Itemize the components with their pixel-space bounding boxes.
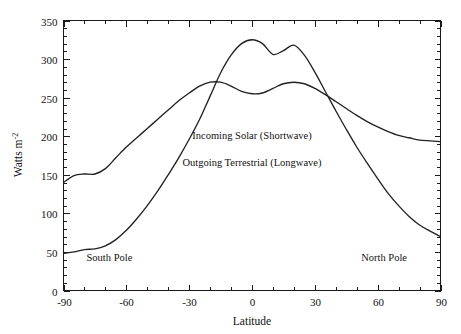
x-axis-tick-labels: -90-60-300306090 bbox=[57, 296, 447, 308]
label-south-pole: South Pole bbox=[87, 252, 133, 263]
latitude-radiation-chart: 050100150200250300350 -90-60-300306090 I… bbox=[0, 0, 461, 334]
y-tick-label: 200 bbox=[41, 131, 58, 143]
x-axis-title: Latitude bbox=[233, 315, 271, 327]
x-tick-label: 30 bbox=[310, 296, 322, 308]
y-axis-title-exponent: -2 bbox=[11, 133, 20, 140]
x-axis-major-ticks bbox=[65, 21, 442, 291]
x-tick-label: 60 bbox=[373, 296, 385, 308]
curve-incoming-solar bbox=[64, 40, 441, 254]
x-tick-label: -90 bbox=[57, 296, 72, 308]
x-axis-minor-ticks bbox=[85, 21, 421, 291]
x-tick-label: 0 bbox=[250, 296, 256, 308]
y-axis-tick-labels: 050100150200250300350 bbox=[41, 16, 58, 298]
radiation-balance-figure: 050100150200250300350 -90-60-300306090 I… bbox=[0, 0, 461, 334]
y-tick-label: 100 bbox=[41, 208, 58, 220]
x-tick-label: 90 bbox=[436, 296, 448, 308]
y-tick-label: 300 bbox=[41, 54, 58, 66]
y-axis-title: Watts m-2 bbox=[11, 133, 24, 177]
annotation-incoming-solar: Incoming Solar (Shortwave) bbox=[192, 130, 312, 142]
y-tick-label: 50 bbox=[47, 247, 59, 259]
y-tick-label: 350 bbox=[41, 16, 58, 28]
y-tick-label: 150 bbox=[41, 170, 58, 182]
x-tick-label: -60 bbox=[119, 296, 134, 308]
plot-frame bbox=[64, 21, 441, 291]
label-north-pole: North Pole bbox=[361, 252, 407, 263]
annotation-outgoing-terrestrial: Outgoing Terrestrial (Longwave) bbox=[182, 157, 322, 169]
x-tick-label: -30 bbox=[182, 296, 197, 308]
y-tick-label: 250 bbox=[41, 93, 58, 105]
y-axis-title-base: Watts m bbox=[12, 139, 24, 177]
